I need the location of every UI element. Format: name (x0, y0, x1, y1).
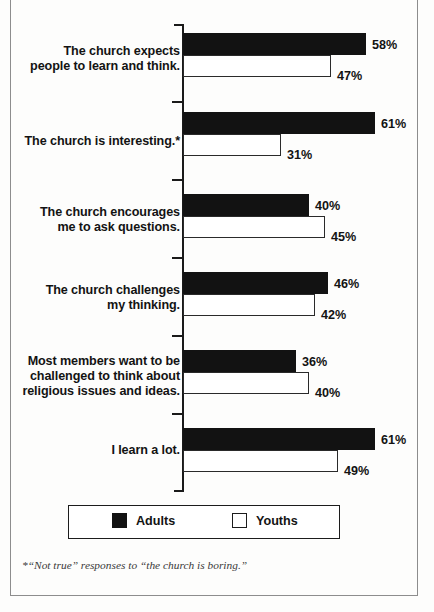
chart-legend: Adults Youths (68, 505, 340, 539)
legend-item-youths: Youths (232, 513, 298, 528)
category-label-1: The church is interesting.* (8, 134, 180, 149)
bar-youths-5 (183, 450, 338, 472)
value-label-youths-4: 40% (315, 386, 340, 400)
axis-tick-4 (172, 335, 183, 337)
bar-adults-4 (183, 350, 296, 372)
bar-chart-plot-area: The church expects people to learn and t… (0, 0, 434, 500)
chart-page: The church expects people to learn and t… (0, 0, 434, 612)
category-label-4-line-2: religious issues and ideas. (8, 384, 180, 399)
category-label-3-line-0: The church challenges (8, 283, 180, 298)
legend-label-adults: Adults (136, 514, 175, 528)
category-label-2-line-0: The church encourages (8, 205, 180, 220)
bar-youths-3 (183, 294, 315, 316)
bar-adults-2 (183, 194, 309, 216)
category-label-0: The church expects people to learn and t… (8, 44, 180, 74)
category-label-4-line-1: challenged to think about (8, 369, 180, 384)
category-label-2-line-1: me to ask questions. (8, 220, 180, 235)
category-label-0-line-0: The church expects (8, 44, 180, 59)
value-label-youths-1: 31% (287, 148, 312, 162)
bar-youths-0 (183, 55, 331, 77)
bar-adults-1 (183, 112, 375, 134)
legend-swatch-adults-icon (112, 513, 127, 528)
value-label-adults-3: 46% (334, 277, 359, 291)
value-label-youths-0: 47% (337, 69, 362, 83)
category-label-5: I learn a lot. (8, 443, 180, 458)
value-label-adults-4: 36% (302, 355, 327, 369)
axis-top-cap (174, 24, 183, 26)
axis-tick-5 (172, 413, 183, 415)
category-label-2: The church encourages me to ask question… (8, 205, 180, 235)
value-label-adults-2: 40% (315, 199, 340, 213)
bar-youths-2 (183, 216, 325, 238)
bar-youths-1 (183, 134, 281, 156)
chart-footnote: *“Not true” responses to “the church is … (22, 559, 247, 571)
value-label-adults-1: 61% (381, 117, 406, 131)
bar-adults-0 (183, 33, 366, 55)
bar-youths-4 (183, 372, 309, 394)
axis-tick-2 (172, 179, 183, 181)
legend-item-adults: Adults (112, 513, 175, 528)
axis-tick-1 (172, 101, 183, 103)
category-label-3: The church challenges my thinking. (8, 283, 180, 313)
category-label-4-line-0: Most members want to be (8, 354, 180, 369)
value-label-youths-3: 42% (321, 308, 346, 322)
axis-bottom-cap (174, 490, 183, 492)
legend-label-youths: Youths (256, 514, 298, 528)
value-label-youths-2: 45% (331, 230, 356, 244)
category-label-1-line-0: The church is interesting.* (8, 134, 180, 149)
bar-adults-5 (183, 428, 375, 450)
category-label-5-line-0: I learn a lot. (8, 443, 180, 458)
axis-tick-3 (172, 257, 183, 259)
value-label-youths-5: 49% (344, 464, 369, 478)
category-label-0-line-1: people to learn and think. (8, 59, 180, 74)
legend-swatch-youths-icon (232, 513, 247, 528)
value-label-adults-5: 61% (381, 433, 406, 447)
category-label-4: Most members want to be challenged to th… (8, 354, 180, 400)
category-label-3-line-1: my thinking. (8, 298, 180, 313)
value-label-adults-0: 58% (372, 38, 397, 52)
bar-adults-3 (183, 272, 328, 294)
